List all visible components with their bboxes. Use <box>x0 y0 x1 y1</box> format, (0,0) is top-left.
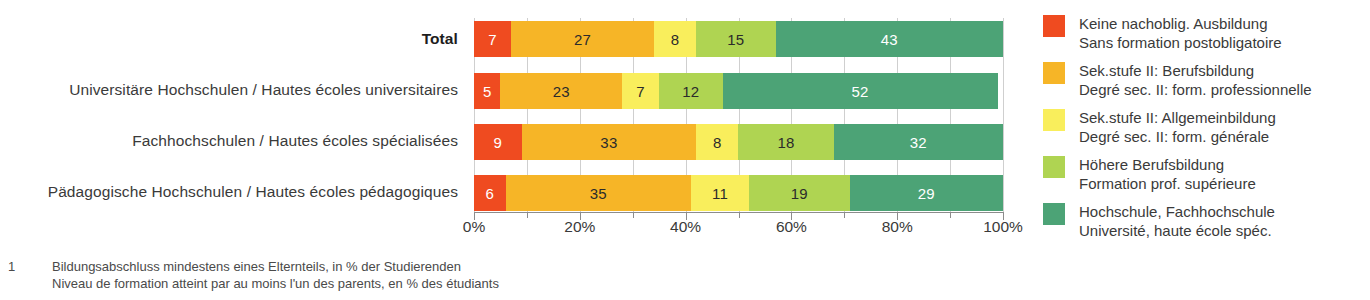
bar-segment-value: 11 <box>712 186 728 201</box>
footnote-marker: 1 <box>8 258 52 275</box>
bar-segment: 27 <box>511 21 654 57</box>
bar-segment-value: 52 <box>852 84 869 99</box>
bar-segment: 18 <box>738 124 833 160</box>
legend-label: Sek.stufe II: BerufsbildungDegré sec. II… <box>1079 61 1312 99</box>
bar-segment: 6 <box>474 175 506 211</box>
bar-segment-value: 8 <box>713 135 722 150</box>
bar-segment: 9 <box>474 124 522 160</box>
plot-area: 727815435237125293381832635111929 <box>474 18 1003 212</box>
legend-label: Hochschule, FachhochschuleUniversité, ha… <box>1079 202 1275 240</box>
bar-segment-value: 32 <box>910 135 927 150</box>
x-tick-label-0: 0% <box>463 218 485 236</box>
bar-segment: 8 <box>654 21 696 57</box>
legend-swatch-icon <box>1043 203 1065 225</box>
bar-segment-value: 5 <box>483 84 492 99</box>
footnote: 1 Bildungsabschluss mindestens eines Elt… <box>8 258 499 292</box>
category-axis-labels: TotalUniversitäre Hochschulen / Hautes é… <box>0 0 466 215</box>
bar-segment: 29 <box>850 175 1003 211</box>
legend-swatch-icon <box>1043 62 1065 84</box>
bar-segment-value: 19 <box>791 186 808 201</box>
footnote-line-de: Bildungsabschluss mindestens eines Elter… <box>52 258 499 275</box>
bar-segment-value: 23 <box>553 84 570 99</box>
legend-label-fr: Degré sec. II: form. générale <box>1079 127 1276 146</box>
bar-segment: 11 <box>691 175 749 211</box>
x-tick-label-3: 60% <box>776 218 807 236</box>
legend-label: Sek.stufe II: AllgemeinbildungDegré sec.… <box>1079 108 1276 146</box>
legend-swatch-icon <box>1043 109 1065 131</box>
bar-segment-value: 18 <box>778 135 795 150</box>
bar-segment-value: 12 <box>682 84 699 99</box>
bar-segment: 7 <box>474 21 511 57</box>
bar-segment-value: 8 <box>671 32 680 47</box>
category-label-2: Fachhochschulen / Hautes écoles spéciali… <box>132 133 458 149</box>
legend-label: Keine nachoblig. AusbildungSans formatio… <box>1079 14 1282 52</box>
bar-segment: 7 <box>622 73 659 109</box>
bar-segment: 52 <box>723 73 998 109</box>
x-tick-label-5: 100% <box>983 218 1023 236</box>
legend-label-de: Sek.stufe II: Berufsbildung <box>1079 61 1312 80</box>
category-label-0: Total <box>422 31 458 47</box>
legend-label-de: Höhere Berufsbildung <box>1079 155 1256 174</box>
bar-segment: 5 <box>474 73 500 109</box>
bar-segment-value: 27 <box>574 32 591 47</box>
legend-item-4[interactable]: Hochschule, FachhochschuleUniversité, ha… <box>1043 202 1368 240</box>
legend-swatch-icon <box>1043 15 1065 37</box>
x-tick-label-1: 20% <box>564 218 595 236</box>
bar-segment-value: 7 <box>488 32 497 47</box>
bar-segment-value: 7 <box>636 84 645 99</box>
bar-segment: 8 <box>696 124 738 160</box>
bar-segment: 23 <box>500 73 622 109</box>
bar-segment-value: 29 <box>918 186 935 201</box>
bar-segment: 12 <box>659 73 722 109</box>
legend-swatch-icon <box>1043 156 1065 178</box>
bar-segment-value: 9 <box>494 135 503 150</box>
legend-label-de: Keine nachoblig. Ausbildung <box>1079 14 1282 33</box>
legend-label-fr: Formation prof. supérieure <box>1079 174 1256 193</box>
x-tick-label-4: 80% <box>882 218 913 236</box>
bar-row: 52371252 <box>474 73 1003 109</box>
legend-item-2[interactable]: Sek.stufe II: AllgemeinbildungDegré sec.… <box>1043 108 1368 146</box>
bar-segment: 32 <box>834 124 1003 160</box>
bar-segment: 15 <box>696 21 775 57</box>
gridline <box>1003 18 1004 212</box>
legend-label-fr: Degré sec. II: form. professionnelle <box>1079 80 1312 99</box>
footnote-line-fr: Niveau de formation atteint par au moins… <box>52 275 499 292</box>
bar-segment: 43 <box>776 21 1003 57</box>
bar-segment-value: 6 <box>486 186 495 201</box>
footnote-body: Bildungsabschluss mindestens eines Elter… <box>52 258 499 292</box>
legend-label-de: Sek.stufe II: Allgemeinbildung <box>1079 108 1276 127</box>
bar-row: 635111929 <box>474 175 1003 211</box>
legend-item-0[interactable]: Keine nachoblig. AusbildungSans formatio… <box>1043 14 1368 52</box>
bar-segment-value: 35 <box>590 186 607 201</box>
bar-segment-value: 15 <box>727 32 744 47</box>
category-label-3: Pädagogische Hochschulen / Hautes écoles… <box>48 184 458 200</box>
legend-label-de: Hochschule, Fachhochschule <box>1079 202 1275 221</box>
legend-label: Höhere BerufsbildungFormation prof. supé… <box>1079 155 1256 193</box>
category-label-1: Universitäre Hochschulen / Hautes écoles… <box>69 82 458 98</box>
legend-item-1[interactable]: Sek.stufe II: BerufsbildungDegré sec. II… <box>1043 61 1368 99</box>
chart-legend: Keine nachoblig. AusbildungSans formatio… <box>1043 14 1368 249</box>
bar-row: 72781543 <box>474 21 1003 57</box>
legend-label-fr: Sans formation postobligatoire <box>1079 33 1282 52</box>
bar-segment: 19 <box>749 175 850 211</box>
x-tick-labels: 0%20%40%60%80%100% <box>474 218 1004 242</box>
chart-figure: TotalUniversitäre Hochschulen / Hautes é… <box>0 0 1370 300</box>
bar-segment: 35 <box>506 175 691 211</box>
bar-segment-value: 33 <box>600 135 617 150</box>
legend-label-fr: Université, haute école spéc. <box>1079 221 1275 240</box>
bar-segment: 33 <box>522 124 697 160</box>
bar-row: 93381832 <box>474 124 1003 160</box>
x-tick-label-2: 40% <box>670 218 701 236</box>
bar-segment-value: 43 <box>881 32 898 47</box>
legend-item-3[interactable]: Höhere BerufsbildungFormation prof. supé… <box>1043 155 1368 193</box>
